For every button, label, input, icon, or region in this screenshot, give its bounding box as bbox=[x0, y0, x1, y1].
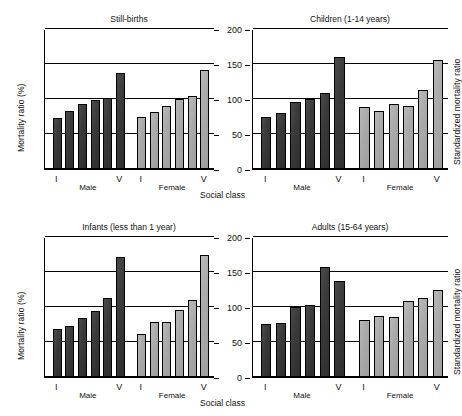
bar-series-container bbox=[253, 30, 448, 169]
bar bbox=[433, 60, 443, 169]
bar bbox=[305, 305, 315, 377]
x-tick-class-first: I bbox=[362, 174, 365, 184]
bar bbox=[65, 111, 74, 169]
x-tick-row: IVMaleIVFemale bbox=[44, 382, 214, 396]
panel-title: Still-births bbox=[44, 14, 214, 24]
bar-series-container bbox=[45, 238, 214, 377]
bar bbox=[200, 70, 209, 169]
y-tick-label-200: 200 bbox=[227, 25, 242, 35]
bar-series-container bbox=[253, 238, 448, 377]
y-tick-mark-right bbox=[245, 308, 250, 309]
y-tick-mark-right bbox=[245, 100, 250, 101]
x-tick-class-last: V bbox=[434, 174, 440, 184]
bar bbox=[320, 93, 330, 169]
y-tick-mark-left bbox=[214, 65, 219, 66]
x-tick-class-last: V bbox=[434, 382, 440, 392]
x-group-label: Female bbox=[387, 183, 414, 192]
x-tick-class-first: I bbox=[139, 382, 142, 392]
bar bbox=[78, 104, 87, 169]
bar bbox=[137, 117, 146, 170]
x-tick-class-last: V bbox=[116, 174, 122, 184]
y-tick-mark-left bbox=[214, 308, 219, 309]
y-tick-label-100: 100 bbox=[227, 303, 242, 313]
bar bbox=[53, 118, 62, 169]
bar bbox=[403, 106, 413, 169]
bar bbox=[53, 329, 62, 377]
plot-area bbox=[44, 238, 214, 378]
panel-children-1-14-years: Children (1-14 years)IVMaleIVFemale bbox=[252, 14, 448, 199]
x-tick-class-first: I bbox=[55, 382, 58, 392]
plot-area bbox=[44, 30, 214, 170]
gridline-200 bbox=[45, 236, 214, 237]
y-tick-mark-right bbox=[245, 65, 250, 66]
bar bbox=[103, 98, 112, 169]
gridline-200 bbox=[45, 28, 214, 29]
y-tick-mark-left bbox=[214, 238, 219, 239]
panel-row-bottom: Infants (less than 1 year)IVMaleIVFemale… bbox=[0, 222, 461, 407]
y-tick-label-150: 150 bbox=[227, 60, 242, 70]
bar bbox=[389, 317, 399, 377]
gridline-200 bbox=[253, 28, 448, 29]
y-tick-mark-right bbox=[245, 135, 250, 136]
bar bbox=[137, 334, 146, 377]
bar bbox=[334, 281, 344, 377]
plot-area bbox=[252, 30, 448, 170]
y-tick-mark-right bbox=[245, 170, 250, 171]
y-tick-mark-left bbox=[214, 135, 219, 136]
bar bbox=[261, 117, 271, 169]
y-tick-label-0: 0 bbox=[237, 373, 242, 383]
y-tick-mark-right bbox=[245, 343, 250, 344]
y-tick-label-0: 0 bbox=[237, 165, 242, 175]
x-tick-row: IVMaleIVFemale bbox=[252, 174, 448, 188]
bar bbox=[389, 104, 399, 169]
y-tick-mark-left bbox=[214, 100, 219, 101]
bar bbox=[150, 112, 159, 169]
bar bbox=[65, 326, 74, 377]
panel-infants-less-than-1-year: Infants (less than 1 year)IVMaleIVFemale bbox=[44, 222, 214, 407]
y-tick-mark-right bbox=[245, 30, 250, 31]
x-group-label: Male bbox=[293, 391, 310, 400]
panel-title: Children (1-14 years) bbox=[252, 14, 448, 24]
bar bbox=[162, 106, 171, 169]
y-tick-label-150: 150 bbox=[227, 268, 242, 278]
bar bbox=[175, 99, 184, 169]
bar bbox=[261, 324, 271, 377]
bar bbox=[290, 307, 300, 377]
shared-y-scale: 050100150200 bbox=[214, 238, 250, 378]
bar bbox=[188, 300, 197, 377]
x-tick-row: IVMaleIVFemale bbox=[44, 174, 214, 188]
bar bbox=[305, 99, 315, 169]
panel-adults-15-64-years: Adults (15-64 years)IVMaleIVFemale bbox=[252, 222, 448, 407]
bar bbox=[403, 301, 413, 377]
bar bbox=[91, 311, 100, 377]
y-tick-mark-left bbox=[214, 378, 219, 379]
bar bbox=[91, 100, 100, 169]
bar bbox=[374, 111, 384, 169]
panel-title: Infants (less than 1 year) bbox=[44, 222, 214, 232]
bar bbox=[116, 73, 125, 169]
gridline-200 bbox=[253, 236, 448, 237]
bar bbox=[334, 57, 344, 169]
x-group-label: Male bbox=[293, 183, 310, 192]
bar bbox=[359, 107, 369, 169]
x-group-label: Female bbox=[387, 391, 414, 400]
panel-title: Adults (15-64 years) bbox=[252, 222, 448, 232]
bar-series-container bbox=[45, 30, 214, 169]
panel-still-births: Still-birthsIVMaleIVFemale bbox=[44, 14, 214, 199]
bar bbox=[200, 255, 209, 377]
x-tick-class-first: I bbox=[264, 382, 267, 392]
panel-row-top: Still-birthsIVMaleIVFemale050100150200Ch… bbox=[0, 14, 461, 199]
x-group-label: Male bbox=[79, 183, 96, 192]
bar bbox=[433, 290, 443, 377]
y-tick-label-200: 200 bbox=[227, 233, 242, 243]
y-tick-label-100: 100 bbox=[227, 95, 242, 105]
bar bbox=[359, 320, 369, 377]
x-group-label: Male bbox=[79, 391, 96, 400]
bar bbox=[418, 90, 428, 169]
x-tick-class-last: V bbox=[336, 174, 342, 184]
y-tick-mark-left bbox=[214, 170, 219, 171]
bar bbox=[175, 310, 184, 377]
bar bbox=[276, 323, 286, 377]
bar bbox=[103, 298, 112, 377]
